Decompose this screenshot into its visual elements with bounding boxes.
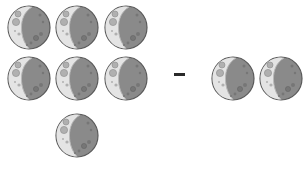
moon-icon — [104, 5, 148, 50]
moon-icon — [259, 56, 303, 101]
moon-icon — [7, 56, 51, 101]
moon-icon — [104, 56, 148, 101]
moon-icon — [7, 5, 51, 50]
moon-icon — [55, 5, 99, 50]
minus-operator — [174, 73, 185, 76]
moon-icon — [55, 56, 99, 101]
moon-icon — [55, 113, 99, 158]
moon-icon — [211, 56, 255, 101]
